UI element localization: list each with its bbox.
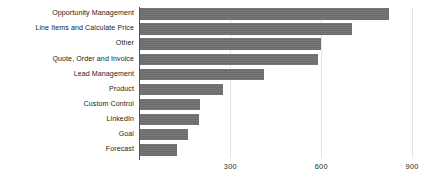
- category-label-6: Custom Control: [0, 97, 134, 112]
- bar-row: Product: [0, 82, 429, 97]
- bar-9: [140, 144, 178, 155]
- category-label-7: LinkedIn: [0, 112, 134, 127]
- bar-row: LinkedIn: [0, 112, 429, 127]
- x-tick-label-900: 900: [392, 162, 429, 171]
- bar-row: Quote, Order and Invoice: [0, 52, 429, 67]
- category-label-9: Forecast: [0, 142, 134, 157]
- bar-row: Custom Control: [0, 97, 429, 112]
- bar-row: Other: [0, 36, 429, 51]
- bar-4: [140, 69, 264, 80]
- category-label-4: Lead Management: [0, 67, 134, 82]
- bar-row: Opportunity Management: [0, 6, 429, 21]
- bar-6: [140, 99, 201, 110]
- bar-row: Goal: [0, 127, 429, 142]
- x-tick-label-300: 300: [210, 162, 250, 171]
- bar-0: [140, 8, 390, 19]
- bar-row: Line Items and Calculate Price: [0, 21, 429, 36]
- bar-5: [140, 84, 223, 95]
- category-label-8: Goal: [0, 127, 134, 142]
- bar-1: [140, 23, 352, 34]
- bar-8: [140, 129, 188, 140]
- bar-row: Forecast: [0, 142, 429, 157]
- bar-2: [140, 38, 322, 49]
- category-label-5: Product: [0, 82, 134, 97]
- category-label-1: Line Items and Calculate Price: [0, 21, 134, 36]
- bar-chart: Opportunity ManagementLine Items and Cal…: [0, 0, 429, 182]
- bar-7: [140, 114, 200, 125]
- x-tick-label-600: 600: [301, 162, 341, 171]
- category-label-3: Quote, Order and Invoice: [0, 52, 134, 67]
- bar-row: Lead Management: [0, 67, 429, 82]
- category-label-2: Other: [0, 36, 134, 51]
- category-label-0: Opportunity Management: [0, 6, 134, 21]
- bar-3: [140, 54, 319, 65]
